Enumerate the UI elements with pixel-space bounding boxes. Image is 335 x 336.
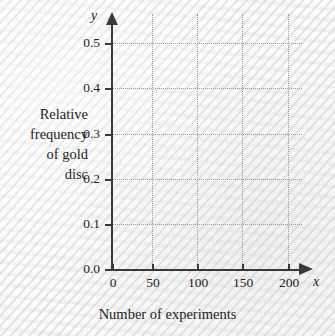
x-axis-line bbox=[112, 269, 303, 271]
x-tick-100 bbox=[197, 264, 199, 271]
y-tick-0.1 bbox=[105, 224, 112, 226]
y-axis-symbol: y bbox=[91, 8, 97, 24]
x-tick-label-150: 150 bbox=[221, 275, 265, 291]
gridline-horizontal-0.3 bbox=[112, 134, 302, 135]
y-tick-label-0.3: 0.3 bbox=[60, 126, 100, 142]
x-tick-label-200: 200 bbox=[267, 275, 311, 291]
plot-area: 0.5 0.4 0.3 0.2 0.1 0.0 0 50 100 150 200… bbox=[0, 0, 335, 336]
gridline-vertical-50 bbox=[152, 14, 153, 270]
y-tick-0.3 bbox=[105, 134, 112, 136]
x-axis-symbol: x bbox=[313, 274, 319, 290]
y-tick-label-0.1: 0.1 bbox=[60, 216, 100, 232]
x-tick-200 bbox=[288, 264, 290, 271]
y-axis-line bbox=[111, 22, 113, 271]
gridline-vertical-100 bbox=[197, 14, 198, 270]
x-tick-label-0: 0 bbox=[91, 275, 135, 291]
gridline-horizontal-0.2 bbox=[112, 179, 302, 180]
y-tick-label-0.5: 0.5 bbox=[60, 35, 100, 51]
gridline-vertical-200 bbox=[288, 14, 289, 270]
x-tick-150 bbox=[242, 264, 244, 271]
x-tick-50 bbox=[152, 264, 154, 271]
x-axis-label: Number of experiments bbox=[0, 306, 335, 323]
x-axis-arrow-icon bbox=[299, 263, 313, 275]
chart-figure: Relative frequency of gold disc 0.5 0.4 … bbox=[0, 0, 335, 336]
gridline-horizontal-0.5 bbox=[112, 43, 302, 44]
y-tick-0.2 bbox=[105, 179, 112, 181]
y-tick-0.5 bbox=[105, 43, 112, 45]
x-tick-label-100: 100 bbox=[176, 275, 220, 291]
y-tick-0.4 bbox=[105, 88, 112, 90]
gridline-vertical-150 bbox=[242, 14, 243, 270]
x-tick-0 bbox=[112, 264, 114, 271]
x-tick-label-50: 50 bbox=[131, 275, 175, 291]
y-tick-0.0 bbox=[105, 269, 112, 271]
y-tick-label-0.4: 0.4 bbox=[60, 80, 100, 96]
y-tick-label-0.2: 0.2 bbox=[60, 171, 100, 187]
y-axis-arrow-icon bbox=[106, 12, 118, 25]
gridline-horizontal-0.4 bbox=[112, 88, 302, 89]
gridline-horizontal-0.1 bbox=[112, 224, 302, 225]
